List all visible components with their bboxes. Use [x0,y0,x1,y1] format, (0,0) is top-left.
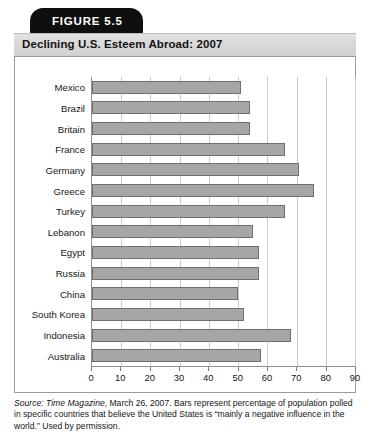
source-label: Source: [14,398,44,408]
category-label-brazil: Brazil [61,102,85,113]
bar-row: China [92,287,355,300]
bar-row: France [92,143,355,156]
x-tick-40 [208,367,209,371]
bar-row: Britain [92,122,355,135]
bar-egypt [92,246,259,259]
x-tick-label-20: 20 [144,372,154,383]
figure-number-tab: FIGURE 5.5 [30,8,143,34]
bar-brazil [92,101,250,114]
figure-container: FIGURE 5.5 Declining U.S. Esteem Abroad:… [0,0,370,445]
bar-lebanon [92,225,253,238]
category-label-lebanon: Lebanon [48,226,85,237]
bar-row: Lebanon [92,225,355,238]
bar-row: Turkey [92,205,355,218]
x-tick-30 [179,367,180,371]
bar-russia [92,267,259,280]
x-tick-label-50: 50 [232,372,242,383]
bar-indonesia [92,329,291,342]
bar-france [92,143,285,156]
x-tick-label-60: 60 [262,372,272,383]
gridline-90 [355,77,356,366]
category-label-mexico: Mexico [55,82,85,93]
x-tick-label-40: 40 [203,372,213,383]
figure-tab-row: FIGURE 5.5 [0,8,370,34]
x-tick-label-10: 10 [115,372,125,383]
bar-south-korea [92,308,244,321]
category-label-indonesia: Indonesia [43,330,85,341]
bar-australia [92,349,261,362]
x-tick-0 [91,367,92,371]
plot-area: MexicoBrazilBritainFranceGermanyGreeceTu… [91,77,355,367]
x-tick-90 [355,367,356,371]
source-note: Source: Time Magazine, March 26, 2007. B… [14,398,358,432]
x-tick-label-70: 70 [291,372,301,383]
x-tick-80 [326,367,327,371]
x-tick-label-0: 0 [88,372,93,383]
category-label-south-korea: South Korea [32,309,85,320]
category-label-russia: Russia [56,268,85,279]
x-tick-label-90: 90 [350,372,360,383]
bar-row: Mexico [92,81,355,94]
bar-row: Brazil [92,101,355,114]
bar-row: Indonesia [92,329,355,342]
bar-row: Russia [92,267,355,280]
bar-china [92,287,238,300]
category-label-china: China [60,288,85,299]
bar-britain [92,122,250,135]
bar-turkey [92,205,285,218]
category-label-egypt: Egypt [60,247,85,258]
bar-row: Australia [92,349,355,362]
x-tick-20 [150,367,151,371]
x-tick-label-30: 30 [174,372,184,383]
bar-row: Greece [92,184,355,197]
chart-frame: MexicoBrazilBritainFranceGermanyGreeceTu… [14,56,356,393]
x-axis: 0102030405060708090 [91,367,355,385]
bar-row: Germany [92,163,355,176]
bar-germany [92,163,299,176]
bar-mexico [92,81,241,94]
bar-row: Egypt [92,246,355,259]
category-label-britain: Britain [58,123,85,134]
bar-rows: MexicoBrazilBritainFranceGermanyGreeceTu… [92,77,355,366]
bar-greece [92,184,314,197]
category-label-germany: Germany [46,164,85,175]
category-label-greece: Greece [54,185,85,196]
x-tick-label-80: 80 [320,372,330,383]
x-tick-70 [296,367,297,371]
x-tick-10 [120,367,121,371]
figure-title-band: Declining U.S. Esteem Abroad: 2007 [14,33,356,57]
x-tick-60 [267,367,268,371]
source-publication: Time Magazine [46,398,105,408]
figure-title: Declining U.S. Esteem Abroad: 2007 [22,38,222,50]
category-label-france: France [55,144,85,155]
x-tick-50 [238,367,239,371]
category-label-turkey: Turkey [56,206,85,217]
category-label-australia: Australia [48,350,85,361]
bar-row: South Korea [92,308,355,321]
